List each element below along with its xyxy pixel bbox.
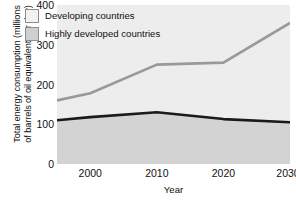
legend-swatch-developing-icon [25, 9, 39, 23]
y-tick-100: 100 [30, 119, 54, 130]
energy-consumption-chart: Total energy consumption (millions of ba… [0, 0, 296, 203]
y-tick-0: 0 [30, 159, 54, 170]
x-axis-tick-labels: 2000201020202030 [57, 168, 290, 181]
x-tick-2020: 2020 [212, 168, 235, 179]
legend-label-developed: Highly developed countries [45, 29, 160, 39]
chart-legend: Developing countries Highly developed co… [22, 6, 164, 46]
legend-label-developing: Developing countries [45, 11, 135, 21]
legend-item-developing: Developing countries [25, 8, 160, 24]
x-tick-2030: 2030 [276, 168, 296, 179]
x-tick-2000: 2000 [79, 168, 102, 179]
x-tick-2010: 2010 [145, 168, 168, 179]
legend-item-developed: Highly developed countries [25, 26, 160, 42]
x-axis-title: Year [57, 184, 290, 195]
legend-swatch-developed-icon [25, 27, 39, 41]
y-tick-200: 200 [30, 80, 54, 91]
